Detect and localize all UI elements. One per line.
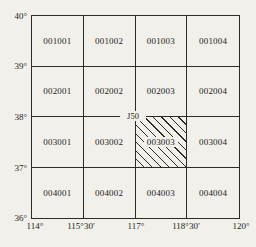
grid-cell-003002: 003002 (84, 117, 136, 168)
grid-cell-004004: 004004 (187, 168, 239, 219)
grid-cell-003001: 003001 (32, 117, 84, 168)
lat-label-39: 39° (0, 61, 27, 71)
cell-label: 004001 (43, 188, 71, 198)
grid-cell-001003: 001003 (136, 16, 188, 67)
cell-label: 003003 (144, 137, 178, 147)
cell-label: 002001 (43, 86, 71, 96)
cell-label: 004004 (199, 188, 227, 198)
map-sheet-grid-figure: 40° 39° 38° 37° 36° 114° 115°30′ 117° 11… (0, 0, 256, 247)
lat-label-40: 40° (0, 11, 27, 21)
j50-sheet-marker: J50 (120, 111, 146, 121)
grid-cell-001001: 001001 (32, 16, 84, 67)
grid-cell-001004: 001004 (187, 16, 239, 67)
grid-cell-004001: 004001 (32, 168, 84, 219)
grid-cell-004002: 004002 (84, 168, 136, 219)
cell-label: 002002 (95, 86, 123, 96)
grid-cell-002004: 002004 (187, 67, 239, 118)
lat-label-38: 38° (0, 112, 27, 122)
cell-label: 002004 (199, 86, 227, 96)
grid-cell-002003: 002003 (136, 67, 188, 118)
cell-label: 001001 (43, 36, 71, 46)
cell-label: 003001 (43, 137, 71, 147)
lat-label-37: 37° (0, 163, 27, 173)
grid-cell-004003: 004003 (136, 168, 188, 219)
grid-cell-003003-hatched: 003003 (136, 117, 188, 168)
cell-label: 003002 (95, 137, 123, 147)
cell-label: 001002 (95, 36, 123, 46)
cell-label: 003004 (199, 137, 227, 147)
cell-label: 004003 (147, 188, 175, 198)
lon-label-115-30: 115°30′ (59, 221, 103, 231)
grid-cell-002001: 002001 (32, 67, 84, 118)
lon-label-118-30: 118°30′ (164, 221, 208, 231)
grid-cell-001002: 001002 (84, 16, 136, 67)
lon-label-117: 117° (114, 221, 158, 231)
lon-label-114: 114° (13, 221, 57, 231)
cell-label: 002003 (147, 86, 175, 96)
lon-label-120: 120° (219, 221, 256, 231)
grid-cell-002002: 002002 (84, 67, 136, 118)
cell-label: 001003 (147, 36, 175, 46)
cell-label: 004002 (95, 188, 123, 198)
grid-cell-003004: 003004 (187, 117, 239, 168)
cell-label: 001004 (199, 36, 227, 46)
